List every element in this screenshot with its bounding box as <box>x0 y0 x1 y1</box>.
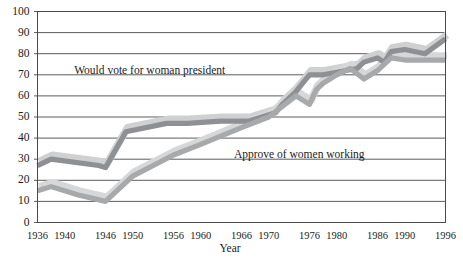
axis-tick-marks <box>34 12 38 223</box>
y-tick-label: 50 <box>4 111 30 123</box>
y-tick-label: 90 <box>4 27 30 39</box>
y-tick-label: 30 <box>4 153 30 165</box>
x-tick-label: 1996 <box>429 231 463 242</box>
y-tick-label: 0 <box>4 217 30 229</box>
y-tick-label: 70 <box>4 69 30 81</box>
x-tick-label: 1950 <box>116 231 150 242</box>
chart-container: 0102030405060708090100 19361940194619501… <box>0 0 463 265</box>
x-tick-label: 1960 <box>184 231 218 242</box>
series-annotation-0: Would vote for woman president <box>74 65 225 77</box>
x-axis-title: Year <box>180 243 280 255</box>
x-tick-label: 1940 <box>48 231 82 242</box>
y-tick-label: 60 <box>4 90 30 102</box>
y-tick-label: 10 <box>4 195 30 207</box>
series-annotation-1: Approve of women working <box>234 149 365 161</box>
x-tick-label: 1990 <box>388 231 422 242</box>
line-chart <box>0 0 463 265</box>
x-tick-label: 1980 <box>320 231 354 242</box>
y-tick-label: 80 <box>4 48 30 60</box>
y-tick-label: 40 <box>4 132 30 144</box>
y-tick-label: 100 <box>4 6 30 18</box>
x-tick-label: 1970 <box>252 231 286 242</box>
y-tick-label: 20 <box>4 174 30 186</box>
